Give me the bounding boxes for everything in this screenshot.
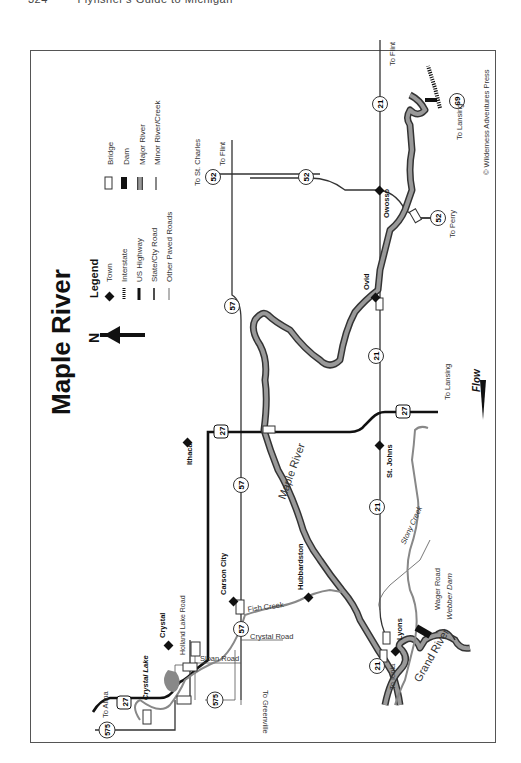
town-label-hubbardston: Hubbardston (296, 543, 305, 590)
dam-block-icon (121, 177, 127, 189)
maple-river-map: Maple River N Legend Town Interstate US … (0, 0, 521, 763)
dest-st-charles: To St. Charles (193, 139, 202, 186)
bridge (191, 642, 200, 656)
map-title: Maple River (46, 269, 76, 415)
legend-label-town: Town (105, 263, 114, 282)
label-fish-creek: Fish Creek (247, 600, 284, 614)
dest-greenville: To Greenville (261, 690, 270, 734)
bridge (409, 209, 421, 223)
north-arrow-icon (100, 326, 145, 344)
bridge (183, 663, 197, 671)
legend-title: Legend (88, 259, 100, 298)
legend-label-interstate: Interstate (120, 248, 129, 282)
legend-label-paved-road: Other Paved Roads (165, 212, 174, 282)
m57-shield: 57 (237, 624, 246, 633)
legend-label-minor-river: Minor River/Creek (153, 100, 162, 165)
m52-shield: 52 (434, 213, 443, 222)
town-label-carson-city: Carson City (219, 552, 228, 595)
town-label-ithaca: Ithaca (185, 442, 194, 465)
wager-road (379, 540, 430, 610)
m21-shield: 21 (373, 661, 382, 670)
town-st-johns (375, 441, 385, 451)
bridge (263, 426, 275, 433)
label-holland-lake-road: Holland Lake Road (179, 595, 186, 655)
label-webber-dam: Webber Dam (445, 573, 454, 620)
legend: Legend Town Interstate US Highway State/… (88, 100, 174, 302)
dest-flint: To Flint (218, 141, 227, 166)
legend-label-state-road: State/Cty Road (150, 228, 159, 282)
m52-shield: 52 (209, 172, 218, 181)
dam-icon (415, 625, 432, 639)
m21-shield: 21 (372, 351, 381, 360)
legend-label-major-river: Major River (138, 124, 147, 165)
m52-shield: 52 (302, 172, 311, 181)
dest-lansing: To Lansing (455, 104, 464, 140)
dest-perry: To Perry (448, 210, 457, 238)
m57-shield: 57 (228, 301, 237, 310)
m575-shield: 575 (212, 694, 219, 706)
town-diamond-icon (105, 292, 115, 302)
flow-label: Flow (471, 368, 482, 392)
us27-shield: 27 (121, 697, 130, 706)
m57-road (232, 140, 241, 700)
m575-shield: 575 (104, 724, 111, 736)
us27-shield: 27 (218, 426, 227, 435)
label-wager-road: Wager Road (433, 568, 442, 610)
bridge-rect-icon (105, 177, 112, 189)
us27-shield: 27 (400, 406, 409, 415)
dest-alma: To Alma (101, 690, 110, 718)
legend-label-us-highway: US Highway (135, 238, 144, 282)
m21-shield: 21 (376, 99, 385, 108)
town-label-st-johns: St. Johns (385, 444, 394, 478)
legend-label-bridge: Bridge (106, 141, 115, 165)
town-label-crystal: Crystal (158, 613, 167, 638)
copyright: © Wilderness Adventures Press (482, 69, 491, 175)
label-sloan-road: Sloan Road (200, 654, 239, 663)
town-label-owosso: Owosso (382, 188, 391, 218)
label-stony-creek: Stony Creek (399, 504, 425, 546)
town-label-lyons: Lyons (395, 618, 404, 640)
label-crystal-road: Crystal Road (250, 632, 293, 641)
town-label-ovid: Ovid (362, 273, 371, 290)
town-crystal (164, 641, 174, 651)
dest-flint: To Flint (388, 41, 397, 66)
north-label: N (86, 333, 102, 343)
label-crystal-lake: Crystal Lake (141, 655, 150, 700)
dest-lansing: To Lansing (443, 364, 452, 400)
bridge (383, 632, 390, 644)
legend-label-dam: Dam (122, 148, 131, 165)
bridge (177, 696, 191, 704)
dest-ionia: To Ionia (388, 663, 397, 690)
m57-shield: 57 (237, 480, 246, 489)
bridge (143, 710, 151, 724)
m21-shield: 21 (373, 502, 382, 511)
crystal-lake (164, 670, 180, 692)
